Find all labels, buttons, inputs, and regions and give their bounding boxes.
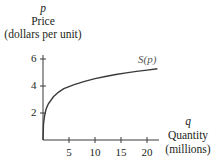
x-tick-20: 20 bbox=[142, 146, 153, 159]
y-axis-var: p bbox=[40, 2, 46, 15]
curve-label: S(p) bbox=[138, 53, 156, 66]
x-axis-unit: (millions) bbox=[165, 143, 210, 156]
supply-curve bbox=[43, 69, 157, 140]
y-tick-4: 4 bbox=[31, 79, 37, 92]
y-axis-title: Price bbox=[31, 15, 55, 28]
x-axis-var: q bbox=[185, 115, 191, 128]
x-tick-10: 10 bbox=[90, 146, 101, 159]
x-tick-15: 15 bbox=[116, 146, 127, 159]
x-axis-title: Quantity bbox=[168, 129, 208, 142]
x-tick-5: 5 bbox=[66, 146, 72, 159]
y-tick-6: 6 bbox=[31, 52, 37, 65]
y-tick-2: 2 bbox=[31, 106, 37, 119]
y-axis-unit: (dollars per unit) bbox=[4, 28, 81, 41]
